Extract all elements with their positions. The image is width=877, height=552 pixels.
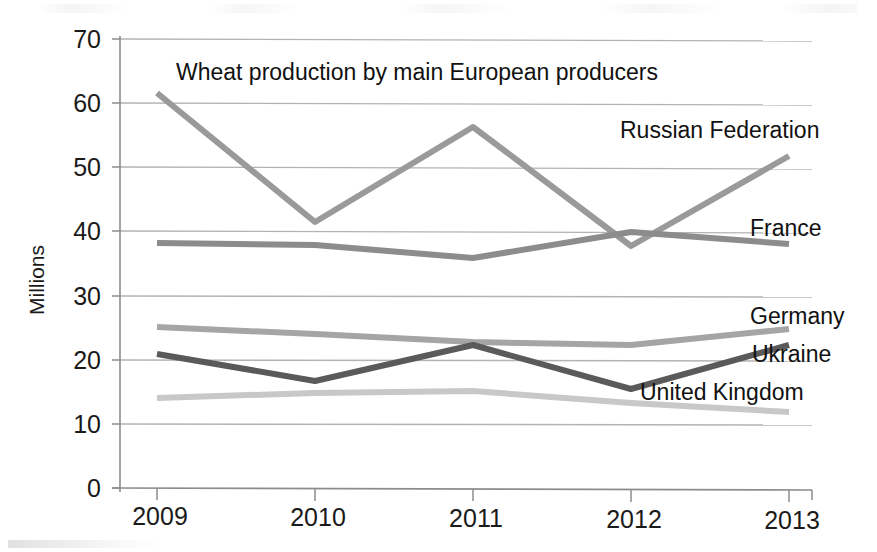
y-axis-title: Millions <box>25 245 48 315</box>
x-axis-line <box>112 488 812 490</box>
y-axis-tick-labels: 70 60 50 40 30 20 10 0 <box>73 25 101 502</box>
xtick-label-2012: 2012 <box>606 505 662 533</box>
ytick-label-0: 0 <box>87 474 101 502</box>
ytick-label-30: 30 <box>73 282 101 310</box>
gridline-40 <box>120 231 812 233</box>
chart-canvas: 70 60 50 40 30 20 10 0 2009 2010 2011 20… <box>0 0 877 552</box>
xtick-label-2011: 2011 <box>449 504 503 532</box>
ytick-label-20: 20 <box>73 346 101 374</box>
ytick-label-70: 70 <box>73 25 101 53</box>
x-axis-tick-labels: 2009 2010 2011 2012 2013 <box>132 502 820 534</box>
series-label-germany: Germany <box>750 303 845 329</box>
xtick-label-2010: 2010 <box>290 503 346 531</box>
gridline-30 <box>120 296 812 297</box>
series-label-united-kingdom: United Kingdom <box>640 379 804 405</box>
gridline-70 <box>120 39 812 41</box>
xtick-label-2009: 2009 <box>132 502 188 530</box>
wheat-production-line-chart: 70 60 50 40 30 20 10 0 2009 2010 2011 20… <box>0 0 877 552</box>
ytick-label-40: 40 <box>73 217 101 245</box>
gridline-20 <box>120 360 812 361</box>
chart-title: Wheat production by main European produc… <box>176 59 658 85</box>
ytick-label-50: 50 <box>73 153 101 181</box>
series-line-russian-federation <box>157 93 789 246</box>
axes <box>112 36 812 502</box>
series-label-france: France <box>750 215 822 241</box>
ytick-label-10: 10 <box>73 410 101 438</box>
ytick-label-60: 60 <box>73 89 101 117</box>
gridline-10 <box>120 424 812 425</box>
gridline-50 <box>120 167 812 169</box>
gridline-60 <box>120 103 812 105</box>
series-label-russian-federation: Russian Federation <box>620 117 819 143</box>
xtick-label-2013: 2013 <box>764 506 820 534</box>
series-label-ukraine: Ukraine <box>752 341 831 367</box>
series-line-france <box>157 232 789 258</box>
